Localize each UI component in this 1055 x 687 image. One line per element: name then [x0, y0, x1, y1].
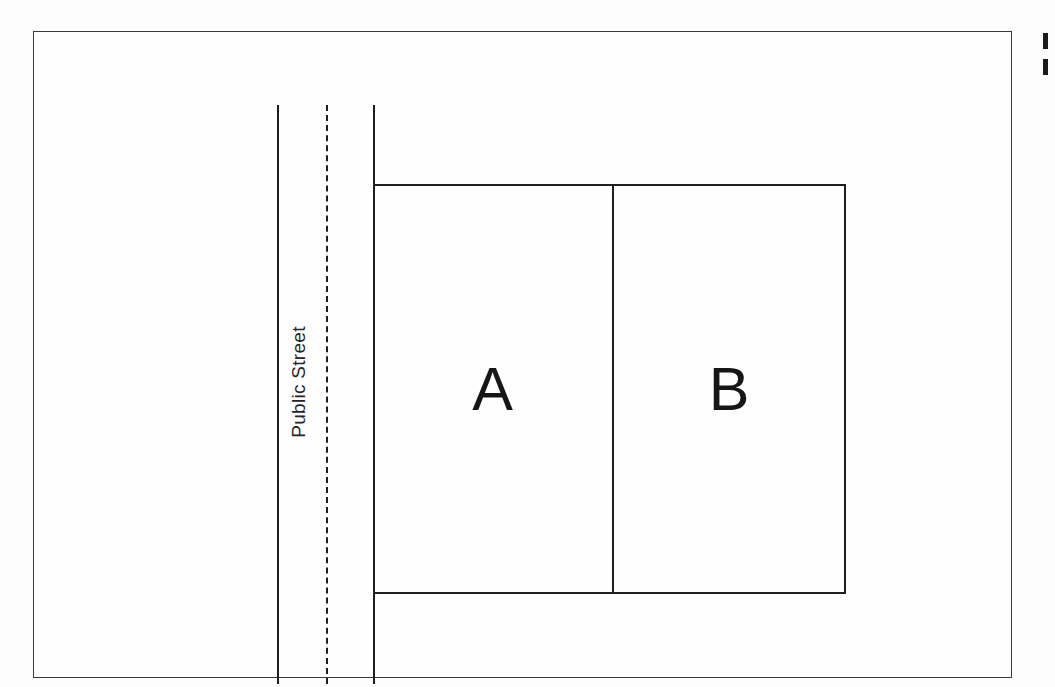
margin-mark-lower [1043, 59, 1048, 75]
margin-mark-upper [1043, 33, 1048, 49]
street-label: Public Street [288, 326, 310, 438]
drawing-border: Public Street A B [33, 31, 1012, 678]
right-margin-marks [1041, 31, 1055, 79]
parcel-label-b: B [612, 184, 846, 594]
parcel-label-a: A [373, 184, 612, 594]
street-left-edge-line [277, 105, 279, 684]
parcel-block: A B [373, 184, 846, 594]
diagram-page: Public Street A B [0, 0, 1055, 687]
street-center-dashed-line [326, 105, 328, 684]
